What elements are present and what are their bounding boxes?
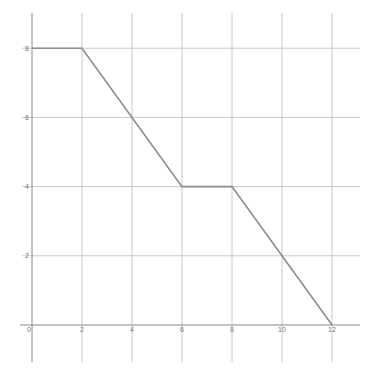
y-tick-label: 8 (25, 45, 29, 52)
horizontal-gridlines (22, 48, 360, 256)
y-tick-label: 6 (25, 114, 29, 121)
x-tick-label: 4 (130, 326, 134, 333)
x-tick-label: 10 (278, 326, 286, 333)
axes (20, 13, 360, 362)
x-tick-label: 12 (328, 326, 336, 333)
y-tick-label: 2 (25, 252, 29, 259)
x-tick-label: 0 (27, 326, 31, 333)
y-tick-label: 4 (25, 183, 29, 190)
x-tick-label: 2 (80, 326, 84, 333)
x-tick-label: 8 (230, 326, 234, 333)
line-chart: 024681012 2468 (0, 0, 378, 380)
y-tick-labels: 2468 (25, 45, 29, 260)
x-tick-labels: 024681012 (27, 326, 336, 333)
vertical-gridlines (82, 13, 332, 362)
x-tick-label: 6 (180, 326, 184, 333)
